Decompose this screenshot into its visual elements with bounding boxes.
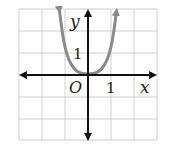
y-tick-label-1: 1 bbox=[73, 45, 83, 63]
graph: y x O 1 1 bbox=[0, 0, 171, 151]
x-axis-label: x bbox=[140, 77, 150, 97]
y-axis-label: y bbox=[69, 11, 80, 31]
origin-label: O bbox=[69, 78, 82, 97]
x-tick-label-1: 1 bbox=[106, 79, 116, 97]
